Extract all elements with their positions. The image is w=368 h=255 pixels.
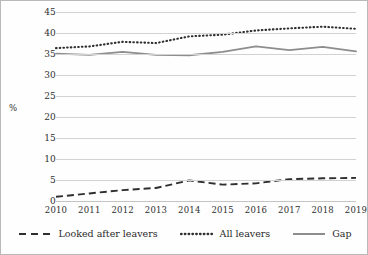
y-axis-labels: 051015202530354045 bbox=[11, 1, 56, 255]
gridline bbox=[56, 117, 356, 118]
x-axis-tick-label: 2017 bbox=[272, 206, 306, 215]
y-axis-tick-label: 40 bbox=[22, 29, 56, 38]
x-axis-tick-label: 2018 bbox=[306, 206, 340, 215]
gridline bbox=[56, 180, 356, 181]
line-chart: 051015202530354045 % 2010201120122013201… bbox=[0, 0, 368, 255]
x-axis-tick-label: 2014 bbox=[172, 206, 206, 215]
x-axis-labels: 2010201120122013201420152016201720182019 bbox=[56, 206, 356, 220]
x-axis-tick-label: 2010 bbox=[39, 206, 73, 215]
x-axis-tick-label: 2012 bbox=[106, 206, 140, 215]
x-axis-tick-label: 2011 bbox=[72, 206, 106, 215]
gridline bbox=[56, 33, 356, 34]
gridline bbox=[56, 159, 356, 160]
x-axis-tick-label: 2015 bbox=[206, 206, 240, 215]
legend-swatch-dashed-icon bbox=[18, 231, 52, 237]
legend-label: Gap bbox=[332, 229, 351, 239]
y-axis-tick-label: 25 bbox=[22, 92, 56, 101]
series-layer bbox=[56, 12, 356, 201]
y-axis-tick-label: 30 bbox=[22, 71, 56, 80]
gridline bbox=[56, 75, 356, 76]
gridline bbox=[56, 201, 356, 202]
x-axis-tick-label: 2013 bbox=[139, 206, 173, 215]
legend-swatch-solid-icon bbox=[292, 231, 326, 237]
gridline bbox=[56, 138, 356, 139]
gridline bbox=[56, 54, 356, 55]
legend-swatch-dotted-icon bbox=[180, 231, 214, 237]
plot-area bbox=[56, 12, 356, 201]
series-line bbox=[56, 27, 356, 48]
chart-legend: Looked after leaversAll leaversGap bbox=[1, 229, 368, 239]
x-axis-tick-label: 2016 bbox=[239, 206, 273, 215]
y-axis-tick-label: 10 bbox=[22, 155, 56, 164]
y-axis-tick-label: 5 bbox=[22, 176, 56, 185]
y-axis-tick-label: 45 bbox=[22, 8, 56, 17]
legend-item[interactable]: All leavers bbox=[180, 229, 271, 239]
x-axis-tick-label: 2019 bbox=[339, 206, 368, 215]
gridline bbox=[56, 96, 356, 97]
legend-item[interactable]: Looked after leavers bbox=[18, 229, 157, 239]
y-axis-title: % bbox=[9, 104, 17, 113]
y-axis-tick-label: 35 bbox=[22, 50, 56, 59]
legend-label: All leavers bbox=[220, 229, 271, 239]
legend-item[interactable]: Gap bbox=[292, 229, 351, 239]
legend-label: Looked after leavers bbox=[58, 229, 157, 239]
y-axis-tick-label: 15 bbox=[22, 134, 56, 143]
gridline bbox=[56, 12, 356, 13]
y-axis-tick-label: 20 bbox=[22, 113, 56, 122]
